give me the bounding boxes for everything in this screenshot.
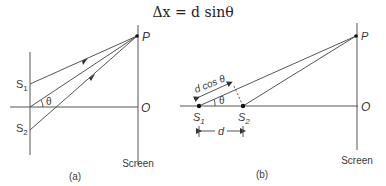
equation: Δx = d sinθ: [152, 4, 233, 20]
theta-arc: [41, 100, 43, 107]
label-theta: θ: [46, 96, 52, 107]
label-s2: S2: [238, 111, 250, 126]
ray-s2: [30, 36, 137, 130]
label-p: P: [142, 30, 150, 44]
point-p: [135, 34, 139, 38]
caption-b: (b): [256, 169, 268, 180]
label-d: d: [218, 125, 225, 137]
label-dcos: d cos θ: [193, 72, 227, 94]
label-s1: S1: [16, 78, 28, 93]
label-s2: S2: [16, 122, 28, 137]
source-s1: [197, 104, 201, 108]
label-o: O: [141, 101, 150, 115]
label-o: O: [361, 100, 370, 114]
point-p: [354, 34, 358, 38]
label-p: P: [361, 30, 369, 42]
figure-a: [10, 25, 139, 165]
ray-s2: [243, 36, 356, 106]
ray-s1: [30, 36, 137, 84]
caption-a: (a): [69, 171, 81, 182]
double-slit-diagram: Δx = d sinθ P O S1 S2 θ Screen (a) d P O…: [0, 0, 386, 186]
label-screen: Screen: [122, 158, 154, 169]
label-s1: S1: [193, 111, 205, 126]
label-screen: Screen: [341, 155, 373, 166]
source-s2: [241, 104, 245, 108]
label-theta: θ: [219, 95, 225, 106]
theta-arc: [214, 99, 215, 106]
